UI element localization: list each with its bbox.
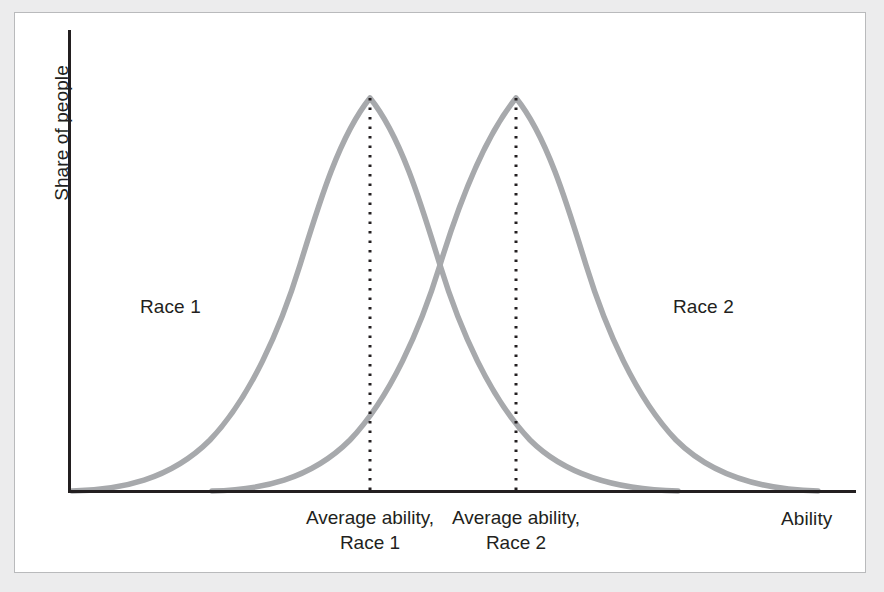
race-2-curve-label: Race 2 xyxy=(673,296,734,318)
plot-area xyxy=(0,0,884,592)
race-1-curve xyxy=(72,98,678,491)
mean-2-tick-label-line2: Race 2 xyxy=(486,532,546,553)
figure-root: Share of people Ability Race 1 Race 2 Av… xyxy=(0,0,884,592)
race-1-curve-label: Race 1 xyxy=(140,296,201,318)
mean-1-tick-label-line2: Race 1 xyxy=(340,532,400,553)
mean-1-tick-label-line1: Average ability, xyxy=(306,507,434,528)
x-axis-label: Ability xyxy=(781,508,832,530)
mean-2-tick-label-line1: Average ability, xyxy=(452,507,580,528)
mean-2-tick-label: Average ability, Race 2 xyxy=(424,505,608,555)
y-axis-label: Share of people xyxy=(51,53,73,213)
